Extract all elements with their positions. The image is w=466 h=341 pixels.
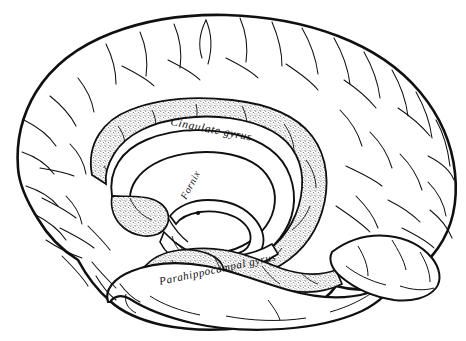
fornix-pointer-dot bbox=[196, 211, 200, 215]
brain-illustration: Cingulate gyrus Fornix Parahippocampal g… bbox=[0, 0, 466, 341]
brain-diagram-figure: Cingulate gyrus Fornix Parahippocampal g… bbox=[0, 0, 466, 341]
